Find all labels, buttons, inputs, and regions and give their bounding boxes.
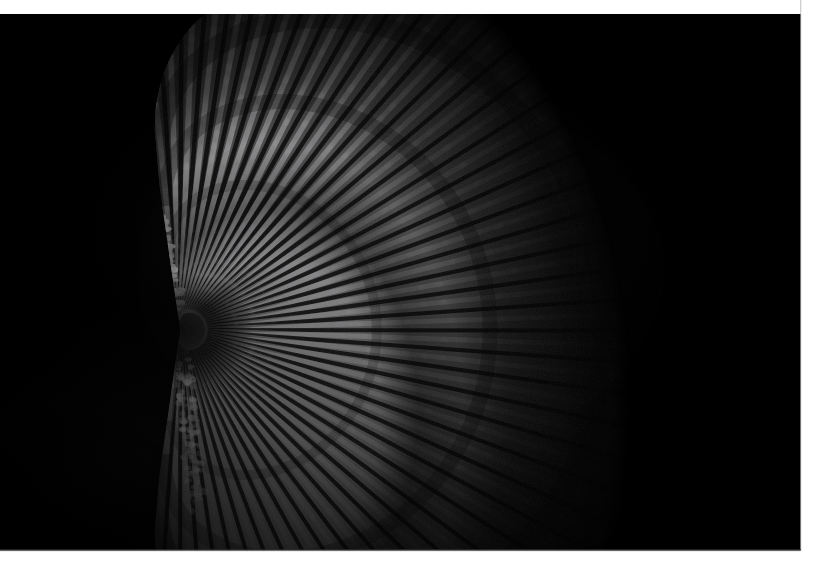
screenshot-canvas bbox=[0, 0, 819, 576]
auricle-nodule-upper bbox=[156, 214, 164, 219]
photo-border-top bbox=[0, 0, 819, 14]
photo-edge-seam-bottom bbox=[0, 549, 801, 552]
auricle-nodule-upper bbox=[163, 253, 167, 258]
auricle-nodule-upper bbox=[153, 223, 162, 230]
film-grain bbox=[155, 14, 672, 551]
auricle-nodule-upper bbox=[152, 249, 157, 256]
auricle-nodule-upper bbox=[147, 202, 154, 209]
photo-border-right bbox=[801, 0, 819, 576]
photo-border-bottom bbox=[0, 551, 819, 576]
photo-edge-seam-right bbox=[800, 0, 802, 551]
auricle-nodule-upper bbox=[154, 234, 162, 238]
auricle-nodule-upper bbox=[154, 210, 159, 213]
auricle-nodule-upper bbox=[155, 238, 159, 244]
scallop-shell bbox=[0, 14, 801, 551]
auricle-nodule-upper bbox=[155, 206, 163, 210]
auricle-nodule-upper bbox=[148, 213, 152, 217]
auricle-nodule-upper bbox=[153, 200, 159, 206]
auricle-nodule-upper bbox=[150, 220, 154, 224]
shell-body bbox=[0, 14, 677, 551]
scallop-shell-illustration bbox=[0, 14, 801, 551]
photograph bbox=[0, 14, 801, 551]
